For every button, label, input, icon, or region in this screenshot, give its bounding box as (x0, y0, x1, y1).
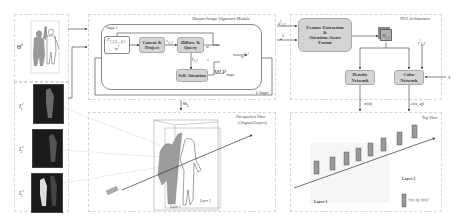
topview-title: Top View (422, 115, 438, 120)
edge-c-label: c1,2 (166, 38, 172, 45)
edge-f-label: f1,2 (192, 56, 198, 63)
sigma-output: σ(x) (364, 101, 372, 106)
input-image-1 (33, 84, 64, 124)
density-network-block: Density Network (345, 70, 375, 85)
panel-topview (290, 112, 442, 212)
feature-fusion-block: Feature Extraction & Attention-Aware Fus… (298, 18, 352, 52)
input-image-2 (32, 129, 63, 168)
l-stages-label: L Stages (256, 91, 269, 95)
topview-layer2: Layer 2 (402, 176, 415, 181)
image-label-1: I1t (19, 102, 24, 111)
edge-s-label: s (207, 57, 209, 62)
diffuse-query-block: Diffuse & Query (177, 37, 204, 53)
image-label-3: I3t (19, 189, 24, 198)
nvs-title: NVS Architecture (400, 16, 430, 21)
self-attention-block: Self-Attention (176, 69, 208, 82)
input-gamma-box: Γ1,2,3,...,L1 wl (104, 36, 130, 54)
topview-layer1: Layer 1 (314, 199, 327, 204)
color-output: c(x, q) (411, 101, 424, 106)
concat-project-block: Concat & Project (139, 37, 165, 53)
edge-w-label: w (206, 44, 209, 49)
alignment-module-title: Human-Image Alignment Module (192, 16, 250, 21)
perspective-layer1: Layer 1 (170, 205, 181, 209)
color-network-block: Color Network (394, 70, 424, 85)
nvs-input-a: aL (280, 34, 284, 41)
mlp-shape-label: MLPshape (214, 69, 234, 77)
nvs-input-d: di1,2 (278, 19, 286, 27)
output-w-label: wl+1 (241, 52, 249, 59)
r-label: ri1,2 (418, 38, 425, 46)
stage-label: Stage 1 (106, 26, 117, 30)
perspective-title-1: Perspective View (236, 114, 265, 119)
input-image-3 (31, 173, 63, 213)
feature-cube-icon: H1,2 (380, 29, 392, 41)
theta0-label: Θ0 (17, 43, 23, 50)
topview-legend: {c(x, q), σ(x)} (408, 198, 429, 202)
theta-l-label: ΘL (183, 101, 189, 108)
perspective-layer2: Layer 2 (200, 199, 211, 203)
perspective-title-2: (Aligned Layers) (238, 120, 267, 125)
panel-perspective (88, 112, 276, 212)
image-label-2: I2t (19, 145, 24, 154)
q-label: q (448, 74, 450, 79)
